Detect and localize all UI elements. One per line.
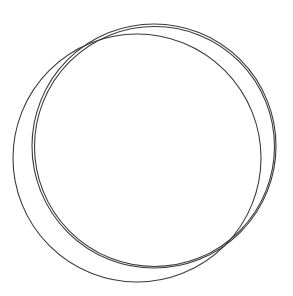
background — [0, 0, 293, 296]
circles-diagram — [0, 0, 293, 296]
